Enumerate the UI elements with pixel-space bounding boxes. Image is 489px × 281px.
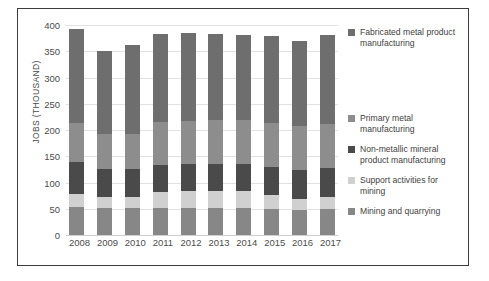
bar-segment[interactable]: [320, 35, 335, 124]
y-axis-tick-label: 400: [44, 20, 60, 31]
bar-segment[interactable]: [153, 34, 168, 122]
y-axis-tick-label: 300: [44, 72, 60, 83]
x-axis-tick-label: 2015: [264, 237, 279, 248]
bar-segment[interactable]: [208, 164, 223, 191]
bar-segment[interactable]: [264, 36, 279, 123]
bar-segment[interactable]: [292, 170, 307, 198]
bar-segment[interactable]: [236, 208, 251, 235]
bar-segment[interactable]: [264, 123, 279, 167]
bar-group: [66, 25, 338, 235]
bar-column[interactable]: [69, 25, 84, 235]
bar-column[interactable]: [320, 25, 335, 235]
legend-item[interactable]: Fabricated metal product manufacturing: [348, 27, 464, 48]
bar-segment[interactable]: [320, 197, 335, 209]
legend-item[interactable]: Non-metallic mineral product manufacturi…: [348, 144, 464, 165]
y-axis-tick-label: 50: [49, 203, 60, 214]
bar-segment[interactable]: [292, 126, 307, 170]
bar-segment[interactable]: [69, 123, 84, 162]
bar-segment[interactable]: [320, 168, 335, 197]
legend-item-label: Fabricated metal product manufacturing: [360, 27, 464, 48]
bar-segment[interactable]: [236, 164, 251, 192]
bar-segment[interactable]: [153, 122, 168, 165]
y-axis-tick-label: 0: [55, 230, 60, 241]
x-axis-tick-label: 2009: [97, 237, 112, 248]
bar-segment[interactable]: [69, 194, 84, 207]
y-axis-tick-label: 100: [44, 177, 60, 188]
y-axis-tick-label: 200: [44, 125, 60, 136]
bar-column[interactable]: [181, 25, 196, 235]
bar-segment[interactable]: [69, 207, 84, 235]
bar-segment[interactable]: [97, 208, 112, 235]
legend-swatch-icon: [348, 29, 355, 36]
bar-segment[interactable]: [181, 191, 196, 207]
bar-segment[interactable]: [153, 165, 168, 192]
plot-area: 400350300250200150100500: [66, 25, 338, 235]
bar-segment[interactable]: [264, 209, 279, 235]
bar-segment[interactable]: [208, 208, 223, 235]
bar-segment[interactable]: [181, 208, 196, 235]
bar-segment[interactable]: [125, 134, 140, 169]
bar-segment[interactable]: [69, 29, 84, 124]
x-axis-tick-label: 2016: [292, 237, 307, 248]
bar-segment[interactable]: [236, 191, 251, 208]
x-axis-tick-label: 2012: [181, 237, 196, 248]
legend-item[interactable]: Primary metal manufacturing: [348, 113, 464, 134]
bar-segment[interactable]: [125, 45, 140, 134]
bar-segment[interactable]: [208, 34, 223, 120]
bar-segment[interactable]: [125, 169, 140, 197]
bar-column[interactable]: [97, 25, 112, 235]
bar-column[interactable]: [236, 25, 251, 235]
bar-column[interactable]: [153, 25, 168, 235]
bar-segment[interactable]: [97, 51, 112, 134]
bar-column[interactable]: [292, 25, 307, 235]
bar-segment[interactable]: [97, 197, 112, 208]
y-axis-title: JOBS (THOUSAND): [31, 37, 41, 167]
gridline: 0: [66, 235, 338, 236]
bar-segment[interactable]: [125, 197, 140, 208]
legend-item-label: Support activities for mining: [360, 175, 464, 196]
legend-swatch-icon: [348, 146, 355, 153]
bar-segment[interactable]: [264, 167, 279, 195]
legend-item-label: Mining and quarrying: [360, 206, 440, 217]
chart-frame: JOBS (THOUSAND) 400350300250200150100500…: [17, 8, 469, 266]
bar-segment[interactable]: [181, 164, 196, 191]
legend-item[interactable]: Support activities for mining: [348, 175, 464, 196]
y-axis-tick-label: 250: [44, 98, 60, 109]
bar-segment[interactable]: [292, 199, 307, 210]
x-axis-tick-label: 2010: [125, 237, 140, 248]
bar-column[interactable]: [208, 25, 223, 235]
x-axis-tick-label: 2014: [236, 237, 251, 248]
bar-segment[interactable]: [292, 210, 307, 235]
bar-segment[interactable]: [181, 121, 196, 165]
x-axis-tick-label: 2011: [153, 237, 168, 248]
x-axis-labels: 2008200920102011201220132014201520162017: [66, 237, 338, 248]
bar-column[interactable]: [264, 25, 279, 235]
chart-legend: Fabricated metal product manufacturingPr…: [348, 25, 464, 235]
legend-item-label: Non-metallic mineral product manufacturi…: [360, 144, 464, 165]
bar-segment[interactable]: [264, 195, 279, 209]
bar-segment[interactable]: [97, 169, 112, 197]
legend-item-label: Primary metal manufacturing: [360, 113, 464, 134]
bar-segment[interactable]: [236, 35, 251, 121]
bar-segment[interactable]: [208, 120, 223, 164]
bar-segment[interactable]: [320, 209, 335, 235]
bar-segment[interactable]: [181, 33, 196, 121]
x-axis-tick-label: 2008: [69, 237, 84, 248]
bar-segment[interactable]: [320, 124, 335, 169]
legend-swatch-icon: [348, 115, 355, 122]
bar-segment[interactable]: [153, 208, 168, 235]
bar-segment[interactable]: [208, 191, 223, 208]
legend-swatch-icon: [348, 177, 355, 184]
bar-segment[interactable]: [292, 41, 307, 126]
bar-segment[interactable]: [97, 134, 112, 169]
x-axis-tick-label: 2017: [320, 237, 335, 248]
bar-segment[interactable]: [69, 162, 84, 194]
x-axis-tick-label: 2013: [208, 237, 223, 248]
bar-segment[interactable]: [125, 208, 140, 235]
legend-swatch-icon: [348, 208, 355, 215]
bar-segment[interactable]: [153, 192, 168, 208]
bar-column[interactable]: [125, 25, 140, 235]
legend-item[interactable]: Mining and quarrying: [348, 206, 464, 217]
bar-segment[interactable]: [236, 120, 251, 164]
y-axis-tick-label: 350: [44, 46, 60, 57]
